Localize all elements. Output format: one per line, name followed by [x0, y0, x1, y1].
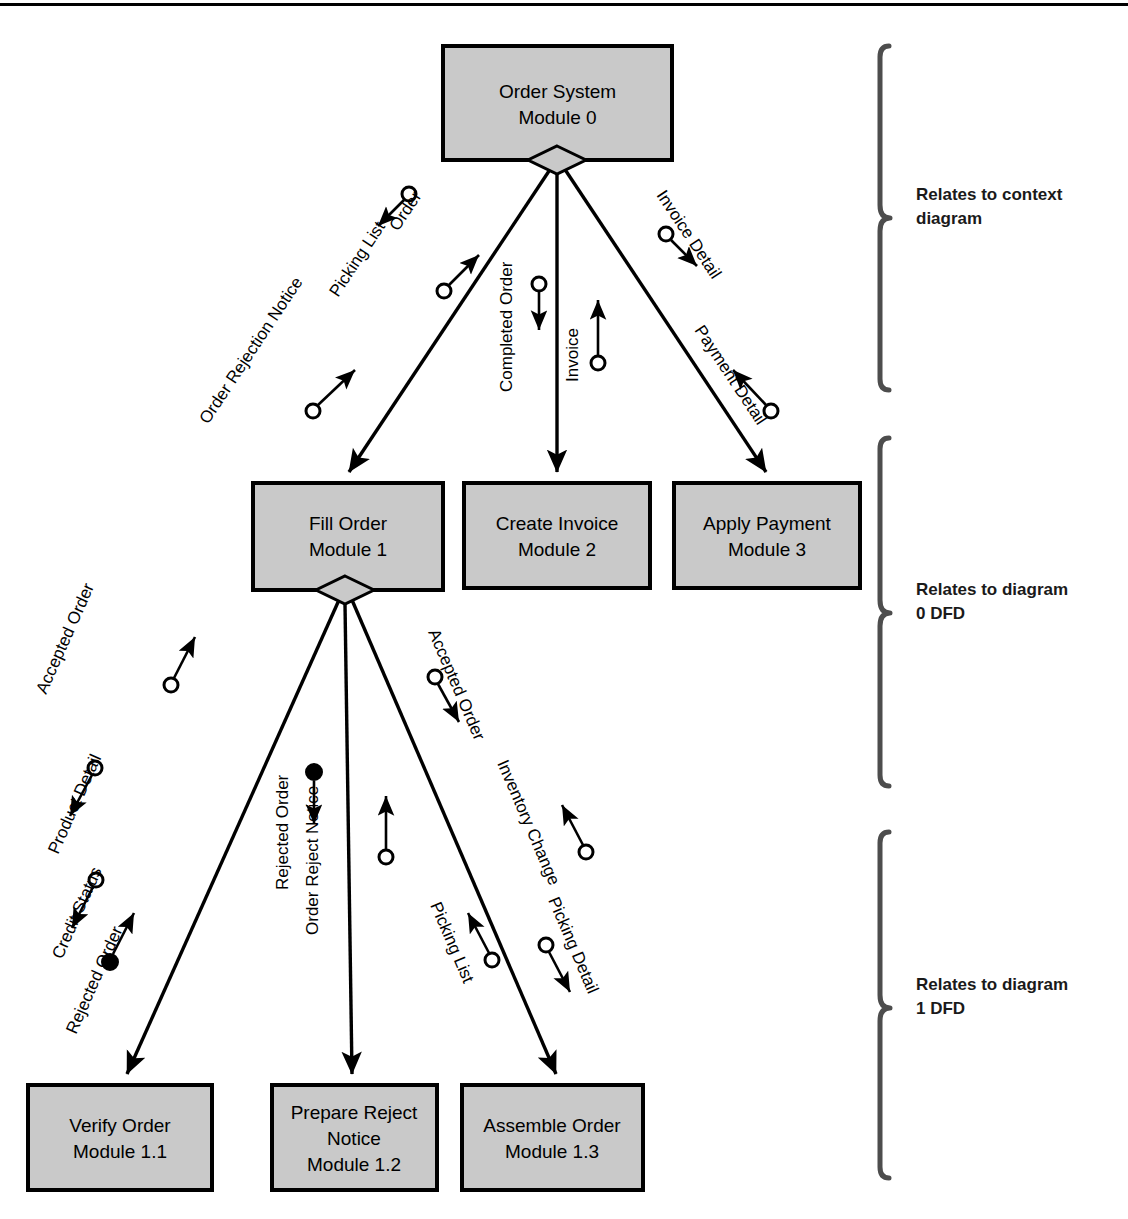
data-couple-circle: [579, 845, 593, 859]
bracket-diagram-1-dfd: [880, 832, 890, 1178]
bracket-context-diagram: [880, 46, 890, 390]
bracket-diagram-0-dfd: [880, 438, 890, 786]
module-apply-payment-number: Module 3: [728, 539, 806, 560]
module-assemble-order-name: Assemble Order: [483, 1115, 621, 1136]
flow-picking-detail-arrow: [549, 952, 570, 992]
module-apply-payment[interactable]: Apply Payment Module 3: [674, 483, 860, 588]
module-fill-order-number: Module 1: [309, 539, 387, 560]
data-couple-circle: [591, 356, 605, 370]
module-verify-order[interactable]: Verify Order Module 1.1: [28, 1085, 212, 1190]
module-fill-order-name: Fill Order: [309, 513, 388, 534]
module-create-invoice-number: Module 2: [518, 539, 596, 560]
flow-picking-list-bottom-arrow: [468, 913, 489, 953]
connector-m1-m12[interactable]: [345, 604, 352, 1074]
flow-invoice-detail-label: Invoice Detail: [653, 187, 725, 283]
bracket-context-diagram-line2: diagram: [916, 209, 982, 228]
flow-order-rejection-notice: Order Rejection Notice: [196, 273, 355, 427]
module-order-system-name: Order System: [499, 81, 616, 102]
flow-credit-status-label: Credit Status: [48, 864, 105, 961]
flow-completed-order-label: Completed Order: [497, 261, 516, 392]
flow-completed-order: Completed Order: [497, 261, 546, 392]
flow-inventory-change-label: Inventory Change: [493, 757, 563, 888]
module-prepare-reject-notice-name: Prepare Reject: [291, 1102, 418, 1123]
flow-invoice: Invoice: [563, 300, 605, 382]
control-couple-circle: [307, 765, 322, 780]
module-order-system[interactable]: Order System Module 0: [443, 46, 672, 174]
flow-inventory-change-arrow: [562, 805, 583, 845]
module-fill-order[interactable]: Fill Order Module 1: [253, 483, 443, 604]
structure-chart-canvas: Order System Module 0 Fill Order Module …: [0, 0, 1128, 1219]
flow-product-detail: Product Detail: [44, 751, 105, 856]
module-create-invoice-name: Create Invoice: [496, 513, 619, 534]
flow-accepted-order-left-label: Accepted Order: [32, 580, 98, 697]
module-verify-order-name: Verify Order: [69, 1115, 171, 1136]
module-create-invoice[interactable]: Create Invoice Module 2: [464, 483, 650, 588]
data-couple-circle: [306, 404, 320, 418]
flow-credit-status: Credit Status: [48, 864, 105, 961]
data-couple-circle: [659, 227, 673, 241]
bracket-diagram-0-dfd-line1: Relates to diagram: [916, 580, 1068, 599]
bracket-group: [880, 46, 890, 1178]
module-prepare-reject-notice[interactable]: Prepare Reject Notice Module 1.2: [272, 1085, 437, 1190]
data-couple-circle: [539, 938, 553, 952]
data-couple-circle: [437, 284, 451, 298]
flow-product-detail-label: Product Detail: [44, 751, 105, 856]
bracket-labels: Relates to context diagram Relates to di…: [916, 185, 1068, 1018]
flow-invoice-detail: Invoice Detail: [653, 187, 725, 283]
module-assemble-order-number: Module 1.3: [505, 1141, 599, 1162]
flow-rejected-order-mid-label: Rejected Order: [273, 774, 292, 890]
flow-order-reject-notice-label: Order Reject Notice: [303, 786, 322, 935]
flow-accepted-order-left-arrow: [174, 637, 195, 678]
data-couple-circle: [379, 850, 393, 864]
diagram-svg: Order System Module 0 Fill Order Module …: [0, 0, 1128, 1219]
module-order-system-number: Module 0: [518, 107, 596, 128]
module-verify-order-number: Module 1.1: [73, 1141, 167, 1162]
data-couple-circle: [532, 277, 546, 291]
data-couple-circle: [428, 670, 442, 684]
flow-order-rejection-notice-arrow: [318, 370, 355, 405]
flow-accepted-order-left: Accepted Order: [32, 580, 195, 697]
flow-accepted-order-right: Accepted Order: [424, 626, 488, 743]
flow-payment-detail: Payment Detail: [691, 322, 778, 429]
bracket-diagram-1-dfd-line2: 1 DFD: [916, 999, 965, 1018]
connector-m0-m1[interactable]: [349, 168, 551, 472]
module-prepare-reject-notice-name2: Notice: [327, 1128, 381, 1149]
control-couple-circle: [103, 955, 118, 970]
data-couple-circle: [485, 953, 499, 967]
module-assemble-order[interactable]: Assemble Order Module 1.3: [462, 1085, 643, 1190]
module-apply-payment-name: Apply Payment: [703, 513, 832, 534]
bracket-context-diagram-line1: Relates to context: [916, 185, 1063, 204]
flow-picking-detail: Picking Detail: [539, 894, 602, 996]
bracket-diagram-1-dfd-line1: Relates to diagram: [916, 975, 1068, 994]
flow-inventory-change: Inventory Change: [493, 757, 593, 888]
flow-order-rejection-notice-label: Order Rejection Notice: [196, 273, 307, 427]
flow-picking-list-top-label: Picking List: [326, 218, 390, 300]
data-couple-circle: [164, 678, 178, 692]
flow-invoice-label: Invoice: [563, 328, 582, 382]
bracket-diagram-0-dfd-line2: 0 DFD: [916, 604, 965, 623]
module-prepare-reject-notice-number: Module 1.2: [307, 1154, 401, 1175]
flow-picking-list-bottom-label: Picking List: [426, 899, 477, 986]
